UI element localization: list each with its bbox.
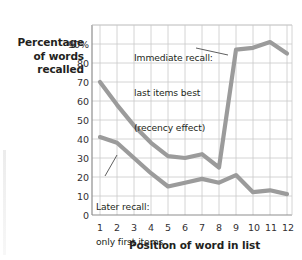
serial-position-chart: Percentage of words recalled 90% 80 70 6… [0,0,302,260]
x-tick-8: 8 [216,222,222,233]
x-tick-12: 12 [282,222,294,233]
x-tick-9: 9 [233,222,239,233]
x-tick-5: 5 [165,222,171,233]
x-tick-4: 4 [148,222,154,233]
x-tick-1: 1 [97,222,103,233]
x-tick-3: 3 [131,222,137,233]
x-tick-7: 7 [199,222,205,233]
x-tick-10: 10 [248,222,260,233]
x-tick-11: 11 [265,222,277,233]
x-axis-title: Position of word in list [92,239,297,251]
x-tick-6: 6 [182,222,188,233]
x-tick-2: 2 [114,222,120,233]
x-axis-tick-labels: 1 2 3 4 5 6 7 8 9 10 11 12 [0,0,302,260]
